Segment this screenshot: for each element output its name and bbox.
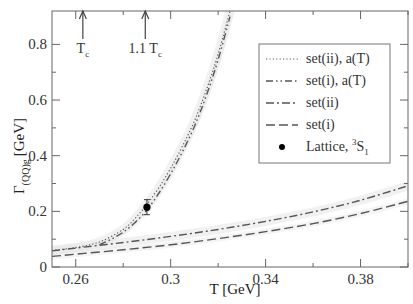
y-tick-label: 0.8 — [28, 36, 47, 52]
y-tick-label: 0.6 — [28, 92, 47, 108]
x-tick-label: 0.3 — [161, 271, 180, 287]
x-tick-label: 0.38 — [347, 271, 373, 287]
y-tick-label: 0.2 — [28, 203, 47, 219]
legend-label: set(ii) — [306, 95, 339, 111]
lattice-data-point — [143, 204, 150, 211]
x-axis-title: T [GeV] — [210, 281, 261, 297]
chart: 0.260.30.340.3800.20.40.60.8 Tc1.1 Tc se… — [0, 0, 413, 304]
legend-label: set(i) — [306, 117, 335, 133]
y-axis-unit: [GeV] — [11, 118, 27, 156]
legend: set(ii), a(T)set(i), a(T)set(ii)set(i)La… — [259, 44, 390, 163]
y-tick-label: 0.4 — [28, 148, 47, 164]
tc-label: 1.1 Tc — [129, 41, 162, 59]
legend-label: set(ii), a(T) — [306, 51, 370, 67]
y-axis-subscript: (QQ)g — [20, 159, 32, 185]
tc-annotations: Tc1.1 Tc — [77, 11, 162, 59]
x-tick-label: 0.26 — [63, 271, 90, 287]
y-tick-label: 0 — [40, 259, 48, 275]
tc-label: Tc — [77, 41, 90, 59]
y-axis-symbol: Γ — [11, 185, 27, 194]
curve-set-i-a-t- — [99, 17, 230, 245]
legend-label: set(i), a(T) — [306, 73, 366, 89]
point-marker-icon — [279, 144, 285, 150]
